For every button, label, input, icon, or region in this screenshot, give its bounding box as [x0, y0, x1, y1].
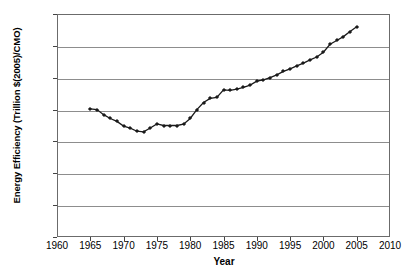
- series-line: [57, 14, 390, 237]
- data-point: [201, 100, 205, 104]
- data-point: [161, 123, 165, 127]
- data-series-energy-efficiency: [57, 14, 390, 237]
- x-axis-title: Year: [57, 256, 391, 267]
- y-axis-title: Energy Efficiency (Trillion $(2005)/CMO): [11, 3, 22, 228]
- x-tick-label-2010: 2010: [370, 240, 402, 251]
- chart-figure: Energy Efficiency (Trillion $(2005)/CMO)…: [0, 0, 402, 274]
- y-tick-mark-0: [53, 237, 57, 238]
